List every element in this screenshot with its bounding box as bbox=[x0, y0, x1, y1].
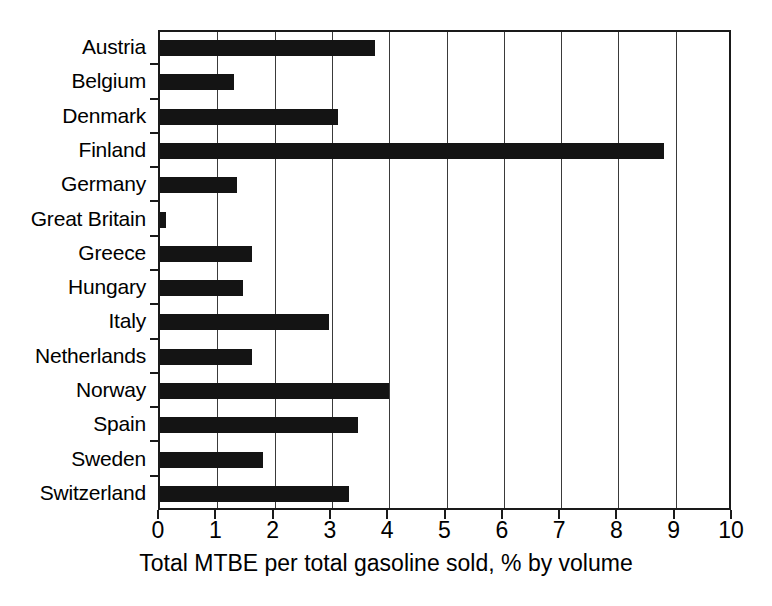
plot-area bbox=[158, 30, 731, 510]
gridline bbox=[275, 32, 276, 508]
x-tick-label: 1 bbox=[209, 516, 222, 544]
category-label: Germany bbox=[0, 173, 152, 194]
x-axis-tick-labels: 012345678910 bbox=[0, 516, 772, 548]
category-axis-labels: AustriaBelgiumDenmarkFinlandGermanyGreat… bbox=[0, 30, 152, 510]
x-tick-label: 0 bbox=[152, 516, 165, 544]
category-label: Hungary bbox=[0, 276, 152, 297]
category-label: Great Britain bbox=[0, 208, 152, 229]
bar bbox=[160, 314, 329, 330]
gridline bbox=[618, 32, 619, 508]
category-tick bbox=[150, 166, 158, 168]
x-axis-title: Total MTBE per total gasoline sold, % by… bbox=[0, 549, 772, 577]
x-tick-label: 6 bbox=[495, 516, 508, 544]
bar bbox=[160, 246, 252, 262]
category-tick bbox=[150, 269, 158, 271]
bar bbox=[160, 417, 358, 433]
bar bbox=[160, 349, 252, 365]
bar bbox=[160, 280, 243, 296]
category-label: Belgium bbox=[0, 70, 152, 91]
category-tick bbox=[150, 440, 158, 442]
bar bbox=[160, 177, 237, 193]
category-tick bbox=[150, 132, 158, 134]
bar bbox=[160, 40, 375, 56]
gridline bbox=[217, 32, 218, 508]
category-tick bbox=[150, 406, 158, 408]
gridline bbox=[561, 32, 562, 508]
category-label: Finland bbox=[0, 139, 152, 160]
x-tick-label: 7 bbox=[553, 516, 566, 544]
gridline bbox=[447, 32, 448, 508]
category-tick bbox=[150, 372, 158, 374]
x-tick-label: 5 bbox=[438, 516, 451, 544]
category-tick bbox=[150, 200, 158, 202]
category-label: Greece bbox=[0, 242, 152, 263]
category-label: Switzerland bbox=[0, 482, 152, 503]
category-tick bbox=[150, 303, 158, 305]
category-tick bbox=[150, 338, 158, 340]
x-tick-label: 2 bbox=[266, 516, 279, 544]
bar bbox=[160, 109, 338, 125]
category-tick bbox=[150, 98, 158, 100]
bar bbox=[160, 383, 389, 399]
category-tick bbox=[150, 235, 158, 237]
gridline bbox=[389, 32, 390, 508]
bar bbox=[160, 74, 234, 90]
x-tick-label: 10 bbox=[718, 516, 744, 544]
category-label: Sweden bbox=[0, 448, 152, 469]
x-tick-label: 4 bbox=[381, 516, 394, 544]
bar bbox=[160, 486, 349, 502]
category-label: Netherlands bbox=[0, 345, 152, 366]
category-tick bbox=[150, 63, 158, 65]
x-tick-label: 3 bbox=[323, 516, 336, 544]
bar bbox=[160, 212, 166, 228]
gridline bbox=[332, 32, 333, 508]
bar bbox=[160, 143, 664, 159]
category-tick bbox=[150, 475, 158, 477]
bar-chart: AustriaBelgiumDenmarkFinlandGermanyGreat… bbox=[0, 0, 772, 606]
category-label: Austria bbox=[0, 36, 152, 57]
x-tick-label: 9 bbox=[667, 516, 680, 544]
category-label: Spain bbox=[0, 413, 152, 434]
bar bbox=[160, 452, 263, 468]
category-tick-marks bbox=[150, 30, 158, 510]
x-tick-label: 8 bbox=[610, 516, 623, 544]
category-label: Denmark bbox=[0, 105, 152, 126]
category-label: Norway bbox=[0, 379, 152, 400]
gridline bbox=[676, 32, 677, 508]
category-label: Italy bbox=[0, 310, 152, 331]
gridline bbox=[504, 32, 505, 508]
